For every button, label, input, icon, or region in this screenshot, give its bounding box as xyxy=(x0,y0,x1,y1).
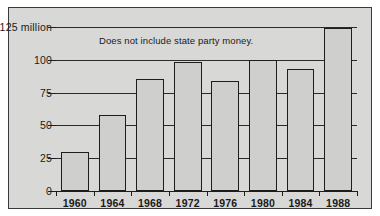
bar-1976 xyxy=(211,81,239,191)
x-tick-label-1988: 1988 xyxy=(326,197,350,209)
bar-1984 xyxy=(287,69,315,191)
gridline-125 xyxy=(56,27,357,28)
x-tick-label-1980: 1980 xyxy=(251,197,275,209)
x-tick-mark-3 xyxy=(169,191,170,196)
bar-1964 xyxy=(99,115,127,191)
chart-plate: 0255075100$125 million 19601964196819721… xyxy=(8,7,372,209)
x-tick-label-1976: 1976 xyxy=(213,197,237,209)
x-tick-mark-7 xyxy=(319,191,320,196)
bar-chart-figure: 0255075100$125 million 19601964196819721… xyxy=(0,0,380,216)
bar-1960 xyxy=(61,152,89,191)
x-tick-label-1972: 1972 xyxy=(176,197,200,209)
x-tick-mark-2 xyxy=(131,191,132,196)
x-tick-label-1984: 1984 xyxy=(288,197,312,209)
x-tick-mark-6 xyxy=(282,191,283,196)
x-tick-label-1964: 1964 xyxy=(100,197,124,209)
gridline-100 xyxy=(56,60,357,61)
x-tick-mark-5 xyxy=(244,191,245,196)
y-tick-mark-75 xyxy=(48,93,56,94)
bar-1988 xyxy=(324,28,352,191)
bar-1972 xyxy=(174,62,202,191)
y-tick-mark-100 xyxy=(48,60,56,61)
x-tick-label-1960: 1960 xyxy=(63,197,87,209)
x-tick-mark-0 xyxy=(56,191,57,196)
y-tick-mark-50 xyxy=(48,125,56,126)
x-tick-mark-8 xyxy=(357,191,358,196)
x-tick-label-1968: 1968 xyxy=(138,197,162,209)
y-tick-mark-125 xyxy=(48,27,56,28)
y-tick-mark-25 xyxy=(48,158,56,159)
chart-annotation: Does not include state party money. xyxy=(99,35,253,46)
y-tick-label-125: $125 million xyxy=(0,21,52,33)
bar-1968 xyxy=(136,79,164,191)
plot-area: 0255075100$125 million 19601964196819721… xyxy=(56,27,357,191)
x-tick-mark-4 xyxy=(207,191,208,196)
bar-1980 xyxy=(249,60,277,191)
x-tick-mark-1 xyxy=(94,191,95,196)
